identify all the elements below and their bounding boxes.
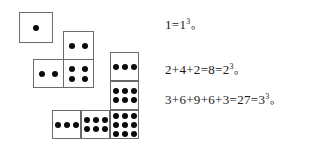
dot-grid-2a [64,32,93,59]
dot [93,117,99,123]
dot [122,97,128,103]
equation-1-punctuation: 。 [191,19,202,31]
equation-line-1: 1=13。 [165,18,202,31]
equation-3-terms: 3+6+9+6+3=27=3 [165,92,265,107]
dot [55,122,61,128]
dot [84,117,90,123]
dot [64,122,70,128]
equation-2-terms: 2+4+2=8=2 [165,62,230,77]
equation-3-punctuation: 。 [270,94,281,106]
dot [82,66,88,72]
dot [131,131,137,137]
die-square-6dot-bottom [81,110,110,139]
die-square-2dot-left [33,59,64,88]
dot [39,71,45,77]
dot [122,113,128,119]
dot [102,117,108,123]
dot [73,122,79,128]
equation-line-3: 3+6+9+6+3=27=33。 [165,93,281,106]
dot [122,64,128,70]
dot [122,122,128,128]
dot [69,43,75,49]
dot [131,97,137,103]
dot [84,126,90,132]
die-square-6dot-right [110,81,139,110]
dot [113,88,119,94]
dot [113,131,119,137]
dot [52,71,58,77]
figure-canvas: 1=13。 2+4+2=8=23。 3+6+9+6+3=27=33。 [0,0,327,149]
dot [113,122,119,128]
dot-grid-3b [53,111,80,138]
dot-grid-6b [82,111,109,138]
equation-2-punctuation: 。 [234,64,245,76]
dot [69,76,75,82]
dot-grid-9 [111,111,138,138]
dot [102,126,108,132]
dot [122,131,128,137]
die-square-9dot [110,110,139,139]
dot-grid-3a [111,53,138,80]
dot [131,113,137,119]
die-square-3dot-bottom [52,110,81,139]
die-square-4dot [63,59,94,88]
dot [131,122,137,128]
dot [122,88,128,94]
dot [113,64,119,70]
dot [113,113,119,119]
die-square-3dot-top [110,52,139,81]
dot-grid-4 [64,60,93,87]
dot-grid-2b [34,60,63,87]
dot [93,126,99,132]
dot [82,76,88,82]
dot [131,64,137,70]
dot-grid-1 [20,13,52,42]
equation-line-2: 2+4+2=8=23。 [165,63,245,76]
dot [33,25,39,31]
dot-grid-6a [111,82,138,109]
dot [113,97,119,103]
dot [82,43,88,49]
die-square-2dot-top [63,31,94,60]
equation-1-terms: 1=1 [165,17,186,32]
dot [69,66,75,72]
die-square-1dot [19,12,53,43]
dot [131,88,137,94]
